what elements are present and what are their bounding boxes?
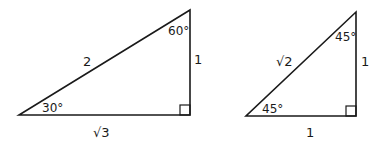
base-label: √3 — [93, 125, 110, 140]
angle-label-60: 60° — [168, 24, 189, 38]
angle-label-45-top: 45° — [335, 30, 356, 44]
special-triangles-diagram: 30° 60° 2 1 √3 45° 45° √2 1 1 — [0, 0, 378, 145]
right-angle-marker — [180, 105, 190, 115]
triangle-30-60-90: 30° 60° 2 1 √3 — [19, 10, 202, 140]
hypotenuse-label: 2 — [83, 54, 91, 69]
angle-label-45-bottom: 45° — [262, 102, 283, 116]
right-angle-marker — [346, 106, 356, 116]
triangle-45-45-90: 45° 45° √2 1 1 — [246, 12, 369, 140]
vertical-side-label: 1 — [361, 54, 369, 69]
hypotenuse-label: √2 — [276, 54, 293, 69]
angle-label-30: 30° — [42, 101, 63, 115]
vertical-side-label: 1 — [194, 52, 202, 67]
triangle-45-45-90-outline — [246, 12, 356, 116]
triangle-30-60-90-outline — [19, 10, 190, 115]
base-label: 1 — [306, 125, 314, 140]
